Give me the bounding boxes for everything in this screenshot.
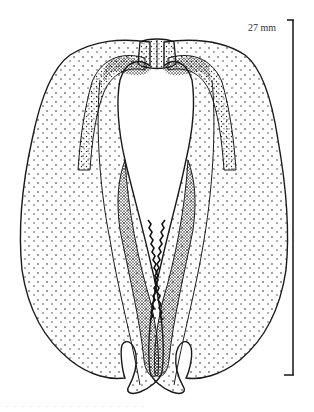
hinge [138,39,176,69]
figure-caption: . . . . . . . . . . . . . . . . . . [6,400,306,412]
scale-bar-label: 27 mm [248,22,276,33]
specimen-illustration [0,0,314,412]
right-valve [149,40,288,393]
left-valve [20,40,163,393]
